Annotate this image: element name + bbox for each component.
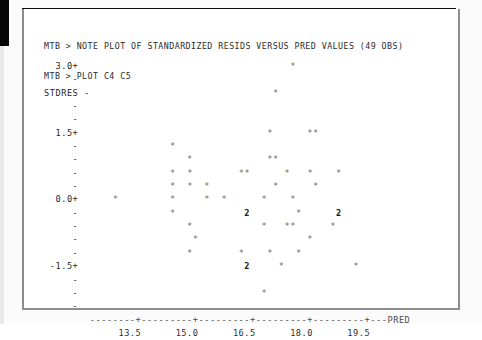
plot-row: - * * ** *	[44, 220, 410, 233]
page-left-edge-shadow	[0, 0, 4, 324]
plot-point: *	[313, 128, 319, 138]
plot-row: 1.5+ * **	[44, 127, 410, 140]
y-axis-tick-label: -	[44, 208, 96, 218]
plot-point: *	[330, 221, 336, 231]
plot-point: *	[244, 168, 250, 178]
plot-point: *	[279, 261, 285, 271]
plot-point: *	[170, 181, 176, 191]
plot-point: *	[170, 208, 176, 218]
plot-point: *	[187, 248, 193, 258]
y-axis-tick-label: -	[44, 275, 96, 285]
plot-point: *	[353, 261, 359, 271]
y-axis-tick-label: -	[44, 141, 96, 151]
session-line-1: MTB > NOTE PLOT OF STANDARDIZED RESIDS V…	[44, 42, 456, 52]
plot-row: - * **	[44, 153, 410, 166]
plot-row: - *	[44, 140, 410, 153]
plot-point-overlap: 2	[244, 261, 250, 271]
plot-point: *	[267, 128, 273, 138]
plot-point: *	[193, 234, 199, 244]
plot-row: 0.0+ * * * * * *	[44, 193, 410, 206]
y-axis-tick-label: 3.0+	[44, 61, 96, 71]
plot-row: - * * * * *	[44, 180, 410, 193]
plot-point: *	[262, 194, 268, 204]
plot-point: *	[307, 234, 313, 244]
character-scatter-plot: 3.0+ * - STDRES - * - - 1.5+ * ** - * -	[44, 60, 410, 340]
y-axis-tick-label: 1.5+	[44, 128, 96, 138]
y-axis-tick-label: -	[44, 154, 96, 164]
plot-row: -	[44, 113, 410, 126]
y-axis-tick-label: -	[44, 288, 96, 298]
plot-point: *	[187, 154, 193, 164]
plot-point: *	[307, 168, 313, 178]
plot-row: STDRES - *	[44, 87, 410, 100]
plot-row: - * * ** * * *	[44, 167, 410, 180]
plot-point: *	[336, 168, 342, 178]
plot-point: *	[290, 194, 296, 204]
plot-point: *	[187, 221, 193, 231]
plot-point: *	[221, 194, 227, 204]
y-axis-tick-label: STDRES -	[44, 88, 96, 98]
plot-point: *	[262, 221, 268, 231]
plot-point: *	[113, 194, 119, 204]
plot-point: *	[290, 61, 296, 71]
y-axis-tick-label: -	[44, 181, 96, 191]
y-axis-tick-label: -1.5+	[44, 261, 96, 271]
plot-point: *	[204, 194, 210, 204]
y-axis-tick-label: -	[44, 74, 96, 84]
plot-row: -	[44, 300, 410, 313]
plot-point: *	[313, 181, 319, 191]
y-axis-tick-label: -	[44, 248, 96, 258]
plot-point: *	[170, 141, 176, 151]
y-axis-tick-label: -	[44, 168, 96, 178]
plot-point: *	[267, 248, 273, 258]
plot-row: - * *	[44, 233, 410, 246]
plot-point: *	[170, 194, 176, 204]
plot-point: *	[296, 208, 302, 218]
plot-point: *	[273, 181, 279, 191]
y-axis-tick-label: -	[44, 301, 96, 311]
page-corner-mark	[0, 0, 9, 46]
plot-point: *	[187, 168, 193, 178]
plot-point: *	[204, 181, 210, 191]
x-axis-line: --------+---------+---------+---------+-…	[44, 314, 410, 327]
plot-point: *	[273, 154, 279, 164]
x-axis-tick-labels: 13.5 15.0 16.5 18.0 19.5	[44, 327, 410, 340]
plot-point-overlap: 2	[244, 208, 250, 218]
plot-point: *	[284, 168, 290, 178]
plot-row: -	[44, 100, 410, 113]
plot-point: *	[290, 221, 296, 231]
plot-row: -	[44, 274, 410, 287]
y-axis-tick-label: -	[44, 234, 96, 244]
plot-point: *	[239, 248, 245, 258]
plot-row: - * * * *	[44, 247, 410, 260]
y-axis-tick-label: -	[44, 114, 96, 124]
plot-row: -	[44, 73, 410, 86]
plot-point: *	[296, 248, 302, 258]
plot-point: *	[170, 168, 176, 178]
plot-row: -1.5+ 2 * *	[44, 260, 410, 273]
y-axis-tick-label: -	[44, 101, 96, 111]
y-axis-tick-label: -	[44, 221, 96, 231]
plot-point: *	[262, 288, 268, 298]
plot-row: - * 2 * 2	[44, 207, 410, 220]
plot-row: - *	[44, 287, 410, 300]
plot-point: *	[273, 88, 279, 98]
y-axis-tick-label: 0.0+	[44, 194, 96, 204]
plot-point-overlap: 2	[336, 208, 342, 218]
plot-row: 3.0+ *	[44, 60, 410, 73]
plot-point: *	[187, 181, 193, 191]
